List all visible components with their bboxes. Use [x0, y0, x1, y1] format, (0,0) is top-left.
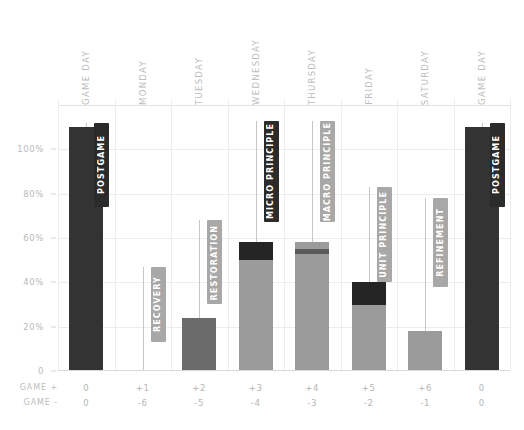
- axis-cell: -2: [352, 398, 386, 408]
- y-axis-tick-label: 80%: [0, 189, 44, 199]
- y-axis-tick-label: 60%: [0, 233, 44, 243]
- category-label-text: FRIDAY: [364, 67, 374, 105]
- axis-cell: 0: [69, 383, 103, 393]
- annotation-leader-line: [312, 121, 313, 243]
- category-label-text: GAME DAY: [477, 50, 487, 105]
- category-separator: [115, 99, 116, 371]
- y-axis-tick-mark: [51, 282, 56, 283]
- axis-cell: -6: [126, 398, 160, 408]
- axis-row-label: GAME +: [6, 383, 58, 392]
- annotation-pill-label: POSTGAME: [493, 135, 501, 194]
- bar[interactable]: [182, 318, 216, 371]
- category-separator: [397, 99, 398, 371]
- category-label-6: FRIDAY: [352, 21, 386, 105]
- axis-cell: +2: [182, 383, 216, 393]
- annotation-pill[interactable]: MACRO PRINCIPLE: [320, 121, 335, 223]
- y-axis-tick-mark: [51, 371, 56, 372]
- category-label-3: TUESDAY: [182, 21, 216, 105]
- category-label-5: THURSDAY: [295, 21, 329, 105]
- category-separator: [341, 99, 342, 371]
- bar[interactable]: [239, 242, 273, 371]
- annotation-leader-line: [143, 267, 144, 371]
- annotation-pill-label: RESTORATION: [211, 225, 219, 300]
- category-label-text: WEDNESDAY: [251, 39, 261, 105]
- annotation-pill[interactable]: MICRO PRINCIPLE: [264, 121, 279, 223]
- bar-segment: [182, 318, 216, 371]
- bar-segment: [295, 242, 329, 249]
- category-label-text: GAME DAY: [81, 50, 91, 105]
- annotation-pill[interactable]: POSTGAME: [490, 123, 505, 207]
- axis-cell: 0: [465, 383, 499, 393]
- annotation-leader-line: [425, 198, 426, 331]
- axis-cell: +1: [126, 383, 160, 393]
- category-separator: [510, 99, 511, 371]
- plot-area: 020%40%60%80%100% POSTGAMERECOVERYRESTOR…: [58, 105, 510, 371]
- annotation-pill-label: POSTGAME: [98, 135, 106, 194]
- annotation-pill-label: MICRO PRINCIPLE: [267, 123, 275, 219]
- bar-segment: [295, 254, 329, 371]
- axis-cell: -5: [182, 398, 216, 408]
- y-axis-tick-label: 100%: [0, 144, 44, 154]
- annotation-leader-line: [369, 187, 370, 282]
- axis-cell: +4: [295, 383, 329, 393]
- category-separator: [228, 99, 229, 371]
- category-label-text: THURSDAY: [307, 49, 317, 105]
- axis-cell: +3: [239, 383, 273, 393]
- annotation-pill-label: UNIT PRINCIPLE: [380, 191, 388, 278]
- y-axis-tick-mark: [51, 193, 56, 194]
- category-label-text: TUESDAY: [194, 57, 204, 105]
- bar-segment: [239, 260, 273, 371]
- annotation-pill-label: REFINEMENT: [437, 208, 445, 277]
- axis-row-label: GAME -: [6, 398, 58, 407]
- chart-root: GAME DAYMONDAYTUESDAYWEDNESDAYTHURSDAYFR…: [0, 0, 524, 430]
- axis-cell: +5: [352, 383, 386, 393]
- category-label-4: WEDNESDAY: [239, 21, 273, 105]
- annotation-pill-label: RECOVERY: [154, 276, 162, 332]
- annotation-pill[interactable]: POSTGAME: [94, 123, 109, 207]
- bar-segment: [352, 282, 386, 304]
- category-label-7: SATURDAY: [408, 21, 442, 105]
- category-label-text: MONDAY: [138, 60, 148, 105]
- y-axis-tick-label: 20%: [0, 322, 44, 332]
- y-axis-tick-label: 40%: [0, 277, 44, 287]
- annotation-leader-line: [256, 121, 257, 243]
- y-axis-tick-label: 0: [0, 366, 44, 376]
- annotation-leader-line: [86, 123, 87, 127]
- annotation-leader-line: [482, 123, 483, 127]
- bar-segment: [408, 331, 442, 371]
- category-separator: [284, 99, 285, 371]
- annotation-pill-label: MACRO PRINCIPLE: [324, 122, 332, 221]
- category-label-8: GAME DAY: [465, 21, 499, 105]
- category-separator: [58, 99, 59, 371]
- axis-cell: 0: [69, 398, 103, 408]
- bar[interactable]: [352, 282, 386, 371]
- axis-cell: -1: [408, 398, 442, 408]
- bar[interactable]: [408, 331, 442, 371]
- bar[interactable]: [295, 242, 329, 371]
- axis-cell: 0: [465, 398, 499, 408]
- y-axis-tick-mark: [51, 149, 56, 150]
- axis-cell: -4: [239, 398, 273, 408]
- category-separator: [171, 99, 172, 371]
- category-separator: [454, 99, 455, 371]
- category-label-1: GAME DAY: [69, 21, 103, 105]
- y-axis-tick-mark: [51, 238, 56, 239]
- bar-segment: [239, 242, 273, 260]
- annotation-leader-line: [199, 220, 200, 318]
- axis-cell: +6: [408, 383, 442, 393]
- annotation-pill[interactable]: REFINEMENT: [433, 198, 448, 287]
- category-label-text: SATURDAY: [420, 50, 430, 105]
- axis-cell: -3: [295, 398, 329, 408]
- bar-segment: [352, 305, 386, 372]
- annotation-pill[interactable]: RESTORATION: [207, 220, 222, 304]
- annotation-pill[interactable]: UNIT PRINCIPLE: [377, 187, 392, 282]
- axis-baseline: [58, 370, 510, 371]
- y-axis-tick-mark: [51, 326, 56, 327]
- category-label-2: MONDAY: [126, 21, 160, 105]
- annotation-pill[interactable]: RECOVERY: [151, 267, 166, 342]
